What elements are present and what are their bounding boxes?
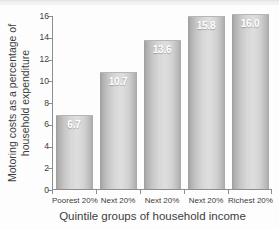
bar-value-label: 10.7 <box>100 76 137 87</box>
x-axis-tick-labels: Poorest 20%Next 20%Next 20%Next 20%Riche… <box>52 196 274 210</box>
y-axis-line <box>52 16 53 190</box>
x-tick-mark <box>228 190 229 194</box>
bar: 10.7 <box>100 72 137 189</box>
chart-figure: Motoring costs as a percentage of househ… <box>0 0 279 230</box>
y-axis-title-line-1: Motoring costs as a percentage of <box>6 14 19 192</box>
bar: 13.6 <box>144 40 181 189</box>
x-tick-mark <box>140 190 141 194</box>
x-tick-label: Next 20% <box>140 196 184 205</box>
x-tick-label: Richest 20% <box>228 196 272 205</box>
y-axis-title-line-2: household expenditure <box>19 14 32 192</box>
y-axis-title: Motoring costs as a percentage of househ… <box>2 14 36 192</box>
bar: 15.8 <box>188 16 225 189</box>
y-tick-label: 14 <box>40 32 49 42</box>
scan-artifact-band-secondary <box>0 3 279 5</box>
y-tick-label: 12 <box>40 54 49 64</box>
bar-value-label: 16.0 <box>232 18 269 29</box>
y-tick-label: 0 <box>44 185 49 195</box>
x-tick-mark <box>271 190 272 194</box>
y-tick-label: 2 <box>44 163 49 173</box>
y-tick-label: 16 <box>40 11 49 21</box>
bar-value-label: 6.7 <box>56 119 93 130</box>
bar-value-label: 15.8 <box>188 20 225 31</box>
plot-area: 02468101214166.710.713.615.816.0 <box>52 16 272 190</box>
bar: 6.7 <box>56 115 93 189</box>
bar: 16.0 <box>232 14 269 189</box>
bar-value-label: 13.6 <box>144 44 181 55</box>
y-tick-label: 10 <box>40 76 49 86</box>
x-tick-mark <box>184 190 185 194</box>
y-tick-label: 4 <box>44 141 49 151</box>
x-tick-mark <box>52 190 53 194</box>
y-tick-label: 6 <box>44 119 49 129</box>
x-tick-label: Next 20% <box>96 196 140 205</box>
y-tick-label: 8 <box>44 98 49 108</box>
x-tick-label: Next 20% <box>184 196 228 205</box>
x-tick-label: Poorest 20% <box>52 196 96 205</box>
x-tick-mark <box>96 190 97 194</box>
x-axis-line <box>52 189 272 190</box>
x-axis-title: Quintile groups of household income <box>30 210 275 222</box>
